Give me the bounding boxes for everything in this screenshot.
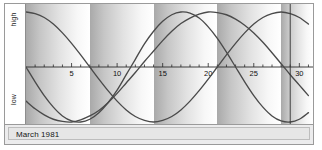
x-axis-tick-label: 15 <box>158 69 166 78</box>
biorhythm-chart-window: high low 51015202530 March 1981 <box>4 3 314 145</box>
chart-footer-bar: March 1981 <box>5 124 313 144</box>
biorhythm-curves: 51015202530 <box>26 4 313 125</box>
x-axis-tick-label: 30 <box>295 69 303 78</box>
y-axis-low-label: low <box>10 80 17 120</box>
x-axis-tick-label: 5 <box>69 69 73 78</box>
x-axis-tick-label: 10 <box>113 69 121 78</box>
x-axis-tick-label: 25 <box>250 69 258 78</box>
y-axis-high-label: high <box>10 0 17 40</box>
chart-plot-area[interactable]: 51015202530 <box>26 4 313 125</box>
month-label-field[interactable]: March 1981 <box>8 127 310 140</box>
month-label: March 1981 <box>16 129 59 140</box>
y-axis-label-gutter: high low <box>5 4 26 125</box>
